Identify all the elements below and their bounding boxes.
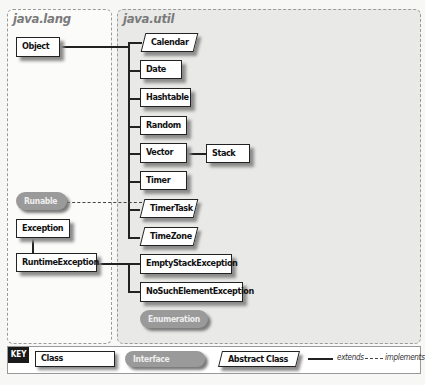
node-label: TimeZone: [150, 227, 192, 245]
edge-runtime-exception: [32, 238, 34, 253]
class-hashtable[interactable]: Hashtable: [140, 88, 191, 107]
class-date[interactable]: Date: [140, 60, 182, 79]
class-runtimeexception[interactable]: RuntimeException: [16, 253, 97, 272]
edge-runtime-trunk: [97, 263, 129, 265]
edge-stack-vector: [187, 153, 206, 155]
class-emptystackexception[interactable]: EmptyStackException: [140, 254, 232, 274]
package-java-lang: java.lang: [7, 9, 112, 344]
key-title: KEY: [8, 347, 29, 363]
interface-enumeration[interactable]: Enumeration: [140, 310, 208, 328]
node-label: Calendar: [151, 33, 189, 51]
edge-nosuchelement: [128, 291, 140, 293]
node-label: TimerTask: [150, 199, 193, 217]
key-implements-line: [365, 358, 383, 359]
edge-timer: [128, 181, 140, 183]
key-class-sample: Class: [35, 351, 115, 367]
key-interface-sample: Interface: [125, 351, 205, 367]
class-exception[interactable]: Exception: [16, 219, 70, 238]
key-extends-label: extends: [337, 353, 364, 362]
interface-runable[interactable]: Runable: [16, 192, 67, 210]
edge-date: [128, 70, 140, 72]
key-abstract-label: Abstract Class: [228, 351, 288, 367]
edge-timertask-implements-runable: [67, 202, 142, 203]
key-abstract-sample: Abstract Class: [220, 351, 298, 367]
edge-emptystack: [128, 263, 140, 265]
edge-calendar: [128, 42, 142, 44]
key-extends-line: [308, 358, 333, 360]
edge-timertask: [128, 209, 140, 211]
edge-vector: [128, 153, 140, 155]
abstract-class-timertask[interactable]: TimerTask: [142, 199, 196, 218]
legend-key: KEY Class Interface Abstract Class exten…: [7, 346, 421, 374]
abstract-class-calendar[interactable]: Calendar: [143, 33, 196, 52]
exception-trunk-vertical: [128, 263, 130, 292]
class-object[interactable]: Object: [16, 37, 60, 57]
class-nosuchelementexception[interactable]: NoSuchElementException: [140, 282, 243, 302]
package-title: java.util: [123, 11, 174, 26]
key-implements-label: implements: [385, 353, 425, 362]
edge-object-trunk: [60, 46, 129, 48]
abstract-class-timezone[interactable]: TimeZone: [142, 227, 196, 246]
package-title: java.lang: [13, 11, 71, 26]
edge-random: [128, 126, 140, 128]
class-vector[interactable]: Vector: [140, 143, 187, 163]
class-stack[interactable]: Stack: [206, 144, 250, 163]
class-timer[interactable]: Timer: [140, 171, 187, 190]
edge-hashtable: [128, 98, 140, 100]
class-random[interactable]: Random: [140, 116, 187, 135]
edge-timezone: [128, 237, 140, 239]
